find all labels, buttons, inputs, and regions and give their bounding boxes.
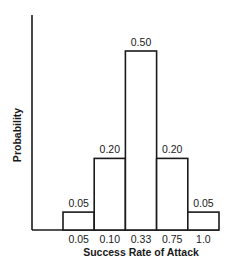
x-axis-title: Success Rate of Attack [83,246,199,258]
probability-histogram: 0.050.200.500.200.05 0.050.100.330.751.0… [0,0,230,271]
x-tick-label: 0.05 [68,233,89,245]
bar [94,158,125,230]
bar [157,158,188,230]
bar [63,212,94,230]
bar-value-label: 0.50 [131,36,152,48]
x-tick-labels-group: 0.050.100.330.751.0 [68,233,210,245]
bar-value-label: 0.20 [100,143,121,155]
x-tick-label: 1.0 [196,233,211,245]
y-axis-title: Probability [11,108,23,162]
bar-value-label: 0.20 [162,143,183,155]
bar-value-label: 0.05 [193,197,214,209]
bar [188,212,219,230]
x-tick-label: 0.10 [100,233,121,245]
bar [125,51,156,230]
bar-value-label: 0.05 [68,197,89,209]
x-tick-label: 0.33 [131,233,152,245]
x-tick-label: 0.75 [162,233,183,245]
